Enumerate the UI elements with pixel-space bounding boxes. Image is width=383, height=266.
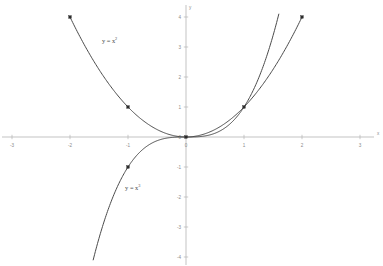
chart-figure: -3-2-10123 -4-3-2-101234 y = x2y = x3 x … <box>0 0 383 266</box>
equation-exponent: 2 <box>115 36 117 41</box>
y-tick-label: -2 <box>177 195 182 200</box>
data-point-marker <box>69 16 72 19</box>
y-tick-label: 4 <box>178 15 181 20</box>
y-tick-label: -3 <box>177 225 182 230</box>
x-tick-label: 0 <box>185 143 188 148</box>
y-tick-label: 1 <box>178 105 181 110</box>
data-point-marker <box>127 166 130 169</box>
x-tick-label: -2 <box>68 143 73 148</box>
x-tick-label: -3 <box>10 143 15 148</box>
equation-base: y = x <box>102 37 116 44</box>
y-tick-label: 3 <box>178 45 181 50</box>
plot-canvas: -3-2-10123 -4-3-2-101234 y = x2y = x3 x … <box>0 0 383 266</box>
y-axis-label: y <box>189 5 192 10</box>
y-tick-label: -4 <box>177 255 182 260</box>
data-point-marker <box>301 16 304 19</box>
x-tick-label: 1 <box>243 143 246 148</box>
data-point-marker <box>127 106 130 109</box>
axes-group <box>2 5 374 265</box>
x-axis-label: x <box>377 131 380 136</box>
data-point-marker <box>243 106 246 109</box>
y-tick-label: 2 <box>178 75 181 80</box>
y-tick-label: -1 <box>177 165 182 170</box>
data-point-marker <box>185 136 188 139</box>
x-tick-label: -1 <box>126 143 131 148</box>
x-tick-label: 3 <box>359 143 362 148</box>
curve-equation-label: y = x2 <box>102 36 117 43</box>
x-tick-label: 2 <box>301 143 304 148</box>
equation-exponent: 3 <box>138 183 140 188</box>
equation-base: y = x <box>125 184 139 191</box>
curve-equation-label: y = x3 <box>125 183 140 190</box>
